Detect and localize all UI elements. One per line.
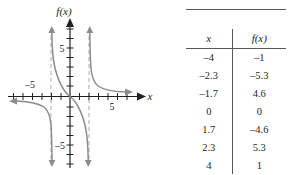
- table-row: –1.7 4.6: [186, 85, 286, 103]
- table-row: –4 –1: [186, 49, 286, 68]
- top-rule-fx-cell: [232, 10, 286, 30]
- curve-branch-left: [17, 101, 52, 160]
- values-table: x f(x) –4 –1 –2.3 –5.3 –1.7 4.6 0: [186, 9, 286, 174]
- y-axis: [66, 18, 74, 168]
- cell-fx: 5.3: [232, 139, 286, 157]
- cell-fx: 1: [232, 157, 286, 174]
- cell-x: 1.7: [186, 121, 232, 139]
- cell-x: –2.3: [186, 67, 232, 85]
- column-header-fx: f(x): [232, 29, 286, 49]
- curve-arrow-left-branch-down: [49, 160, 56, 167]
- coordinate-plane: f(x) x –5 5 5 –5: [0, 0, 160, 174]
- table-top-rule-row: [186, 10, 286, 30]
- values-table-body: –4 –1 –2.3 –5.3 –1.7 4.6 0 0 1.7 –4.6: [186, 49, 286, 175]
- table-row: –2.3 –5.3: [186, 67, 286, 85]
- y-tick-label-negative-5: –5: [54, 140, 65, 151]
- curve-arrow-right-branch-up: [86, 26, 93, 33]
- curve-arrow-middle-branch-down: [85, 160, 92, 167]
- curve-branch-right: [90, 33, 125, 92]
- table-row: 4 1: [186, 157, 286, 174]
- curve-arrow-middle-branch-up: [48, 26, 55, 33]
- table-row: 1.7 –4.6: [186, 121, 286, 139]
- x-tick-label-positive-5: 5: [110, 101, 115, 112]
- x-axis-arrowhead: [137, 93, 146, 101]
- curve-arrow-right-end: [125, 89, 133, 96]
- cell-x: –4: [186, 49, 232, 68]
- cell-fx: 0: [232, 103, 286, 121]
- x-tick-label-negative-5: –5: [24, 79, 35, 90]
- values-table-header-row: x f(x): [186, 29, 286, 49]
- cell-x: 0: [186, 103, 232, 121]
- cell-x: 4: [186, 157, 232, 174]
- values-table-panel: x f(x) –4 –1 –2.3 –5.3 –1.7 4.6 0: [186, 9, 286, 174]
- cell-fx: 4.6: [232, 85, 286, 103]
- y-axis-label: f(x): [56, 5, 72, 18]
- table-row: 2.3 5.3: [186, 139, 286, 157]
- cell-fx: –4.6: [232, 121, 286, 139]
- rational-function-figure: f(x) x –5 5 5 –5 x f(x) –4: [0, 0, 294, 174]
- cell-x: –1.7: [186, 85, 232, 103]
- graph-panel: f(x) x –5 5 5 –5: [0, 0, 160, 174]
- x-axis-label: x: [147, 90, 153, 102]
- table-row: 0 0: [186, 103, 286, 121]
- y-axis-arrowhead: [66, 18, 74, 27]
- cell-x: 2.3: [186, 139, 232, 157]
- values-table-head: x f(x): [186, 10, 286, 49]
- cell-fx: –5.3: [232, 67, 286, 85]
- cell-fx: –1: [232, 49, 286, 68]
- column-header-x: x: [186, 29, 232, 49]
- y-tick-label-positive-5: 5: [60, 43, 65, 54]
- top-rule-x-cell: [186, 10, 232, 30]
